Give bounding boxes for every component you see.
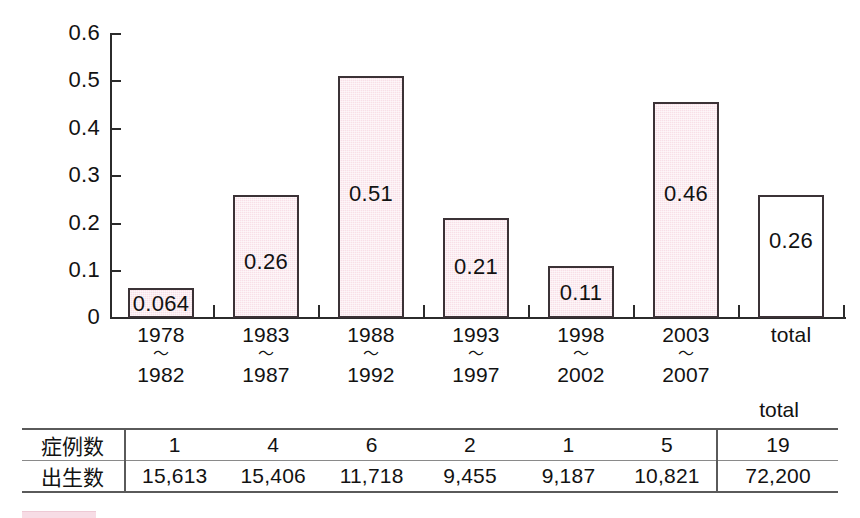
x-category-label-1993-1997: 1993 〜 1997 [421,322,531,387]
y-tick-label-0: 0 [36,306,100,328]
x-category-start-0: 1978 [106,322,216,347]
table-cell-births-2: 11,718 [322,461,420,493]
table-cell-cases-4: 1 [519,429,617,461]
x-category-start-4: 1998 [526,322,636,347]
x-category-end-4: 2002 [526,362,636,387]
x-category-label-total: total [736,322,846,347]
table-cell-births-5: 10,821 [618,461,717,493]
x-category-label-2003-2007: 2003 〜 2007 [631,322,741,387]
x-category-end-1: 1987 [211,362,321,387]
table-cell-births-4: 9,187 [519,461,617,493]
x-category-start-2: 1988 [316,322,426,347]
y-tick-label-0.6: 0.6 [36,22,100,44]
table-cell-cases-0: 1 [125,429,224,461]
x-category-tilde-2: 〜 [316,346,426,362]
x-category-label-1998-2002: 1998 〜 2002 [526,322,636,387]
bar-value-1998-2002: 0.11 [550,282,612,304]
y-tick-label-0.5: 0.5 [36,69,100,91]
data-table: 症例数 1 4 6 2 1 5 19 出生数 15,613 15,406 11,… [22,428,838,493]
x-category-end-5: 2007 [631,362,741,387]
table-cell-cases-5: 5 [618,429,717,461]
bar-value-1978-1982: 0.064 [130,293,192,315]
bar-value-2003-2007: 0.46 [655,183,717,205]
x-category-label-1988-1992: 1988 〜 1992 [316,322,426,387]
bar-value-1988-1992: 0.51 [340,183,402,205]
x-category-tilde-0: 〜 [106,346,216,362]
x-category-start-3: 1993 [421,322,531,347]
table-total-column-header: total [720,398,838,421]
x-category-tilde-3: 〜 [421,346,531,362]
x-category-tilde-1: 〜 [211,346,321,362]
legend-color-swatch [22,511,96,518]
bar-total[interactable]: 0.26 [758,195,824,318]
table-row-births: 出生数 15,613 15,406 11,718 9,455 9,187 10,… [22,461,838,493]
bar-1978-1982[interactable]: 0.064 [128,288,194,318]
x-category-tilde-5: 〜 [631,346,741,362]
table-cell-births-0: 15,613 [125,461,224,493]
bar-value-total: 0.26 [760,230,822,252]
x-category-end-0: 1982 [106,362,216,387]
table-cell-cases-2: 6 [322,429,420,461]
x-category-end-2: 1992 [316,362,426,387]
bar-1993-1997[interactable]: 0.21 [443,218,509,318]
y-tick-label-0.1: 0.1 [36,259,100,281]
y-tick-label-0.2: 0.2 [36,212,100,234]
table-row-cases: 症例数 1 4 6 2 1 5 19 [22,429,838,461]
table-cell-births-1: 15,406 [224,461,322,493]
table-cell-births-3: 9,455 [421,461,519,493]
table-cell-births-total: 72,200 [717,461,838,493]
x-category-tilde-4: 〜 [526,346,636,362]
plot-area: 0.064 0.26 0.51 0.21 0.11 0.46 0.26 [110,33,845,318]
bar-1988-1992[interactable]: 0.51 [338,76,404,318]
y-tick-label-0.3: 0.3 [36,164,100,186]
x-category-start-5: 2003 [631,322,741,347]
y-tick-label-0.4: 0.4 [36,117,100,139]
table-row-label-cases: 症例数 [22,429,125,461]
x-category-end-3: 1997 [421,362,531,387]
bar-1983-1987[interactable]: 0.26 [233,195,299,318]
table-row-label-births: 出生数 [22,461,125,493]
bar-2003-2007[interactable]: 0.46 [653,102,719,318]
x-category-label-1983-1987: 1983 〜 1987 [211,322,321,387]
x-category-start-6: total [736,322,846,347]
table-cell-cases-3: 2 [421,429,519,461]
bar-1998-2002[interactable]: 0.11 [548,266,614,318]
bar-value-1993-1997: 0.21 [445,256,507,278]
x-category-label-1978-1982: 1978 〜 1982 [106,322,216,387]
table-cell-cases-total: 19 [717,429,838,461]
bar-value-1983-1987: 0.26 [235,251,297,273]
x-category-start-1: 1983 [211,322,321,347]
table-cell-cases-1: 4 [224,429,322,461]
